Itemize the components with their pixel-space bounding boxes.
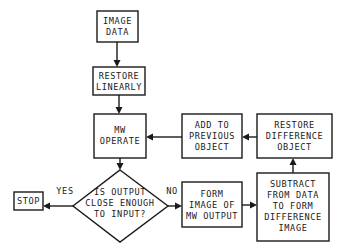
arrowhead-icon xyxy=(250,202,257,209)
node-label: RESTORE xyxy=(274,120,314,130)
node-label: MW xyxy=(114,125,126,135)
node-stop: STOP xyxy=(14,192,43,210)
node-restore-linearly: RESTORE LINEARLY xyxy=(93,67,145,95)
node-subtract: SUBTRACT FROM DATA TO FORM DIFFERENCE IM… xyxy=(257,173,329,241)
node-decision: IS OUTPUT CLOSE ENOUGH TO INPUT? xyxy=(73,170,168,242)
node-label: RESTORE xyxy=(99,71,139,81)
node-label: OPERATE xyxy=(100,136,140,146)
arrowhead-icon xyxy=(242,134,249,141)
arrowhead-icon xyxy=(116,107,123,114)
node-mw-operate: MW OPERATE xyxy=(94,114,146,158)
node-form-image: FORM IMAGE OF MW OUTPUT xyxy=(182,182,242,227)
node-label: PREVIOUS xyxy=(189,131,235,141)
edge-label-yes: YES xyxy=(56,186,73,196)
node-label: IMAGE OF xyxy=(189,200,235,210)
node-label: FORM xyxy=(200,189,223,199)
node-label: OBJECT xyxy=(195,142,230,152)
node-label: CLOSE ENOUGH xyxy=(85,198,154,208)
node-label: OBJECT xyxy=(277,142,312,152)
node-label: MW OUTPUT xyxy=(186,211,238,221)
node-label: ADD TO xyxy=(195,120,230,130)
node-restore-difference: RESTORE DIFFERENCE OBJECT xyxy=(257,114,332,158)
node-label: DATA xyxy=(106,27,129,37)
arrowhead-icon xyxy=(290,158,297,165)
node-image-data: IMAGE DATA xyxy=(97,11,138,42)
node-label: SUBTRACT xyxy=(270,179,316,189)
node-add-to-previous: ADD TO PREVIOUS OBJECT xyxy=(182,114,242,158)
node-label: STOP xyxy=(17,196,40,206)
node-label: IMAGE xyxy=(103,16,132,26)
node-label: IMAGE xyxy=(279,223,308,233)
node-label: DIFFERENCE xyxy=(264,212,322,222)
arrowhead-icon xyxy=(114,60,121,67)
node-label: IS OUTPUT xyxy=(94,187,146,197)
flowchart: IMAGE DATA RESTORE LINEARLY MW OPERATE A… xyxy=(0,0,343,252)
arrowhead-icon xyxy=(43,203,50,210)
edge-label-no: NO xyxy=(166,186,178,196)
arrowhead-icon xyxy=(146,134,153,141)
arrowhead-icon xyxy=(117,163,124,170)
arrowhead-icon xyxy=(175,203,182,210)
node-label: LINEARLY xyxy=(96,82,142,92)
node-label: TO FORM xyxy=(273,201,313,211)
node-label: FROM DATA xyxy=(267,190,319,200)
node-label: DIFFERENCE xyxy=(266,131,324,141)
node-label: TO INPUT? xyxy=(94,209,146,219)
